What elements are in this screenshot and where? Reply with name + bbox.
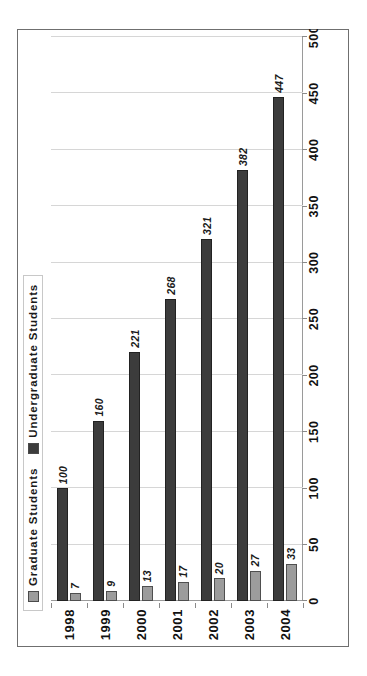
gridline (51, 374, 303, 375)
value-axis-tick-mark (302, 375, 307, 376)
gridline (51, 149, 303, 150)
bar-label-graduate-2002: 20 (213, 562, 225, 574)
plot-area: 100716092211326817321203822744733 (51, 37, 303, 601)
bar-label-undergraduate-2004: 447 (273, 74, 285, 92)
value-axis-tick-label: 150 (307, 421, 321, 443)
chart-legend: Graduate Students Undergraduate Students (23, 275, 43, 611)
bar-label-graduate-2001: 17 (177, 566, 189, 578)
category-axis-label-1999: 1999 (98, 609, 113, 640)
category-axis: 1998199920002001200220032004 (51, 603, 303, 647)
rotated-chart-wrapper: Graduate Students Undergraduate Students… (17, 29, 349, 647)
bar-undergraduate-2003 (237, 170, 248, 601)
category-axis-tick-mark (51, 603, 52, 608)
chart-canvas: Graduate Students Undergraduate Students… (17, 29, 349, 647)
bar-graduate-2000 (142, 586, 153, 601)
gridline (51, 92, 303, 93)
bar-label-graduate-2000: 13 (141, 570, 153, 582)
value-axis-tick-mark (302, 93, 307, 94)
bar-label-undergraduate-2001: 268 (165, 276, 177, 294)
bar-undergraduate-2002 (201, 239, 212, 601)
bar-graduate-2002 (214, 578, 225, 601)
category-axis-label-1998: 1998 (62, 609, 77, 640)
value-axis-tick-label: 0 (307, 597, 321, 604)
gridline (51, 205, 303, 206)
bar-undergraduate-2001 (165, 299, 176, 601)
gridline (51, 544, 303, 545)
bar-graduate-2004 (286, 564, 297, 601)
category-axis-label-2002: 2002 (206, 609, 221, 640)
value-axis-tick-label: 500 (307, 29, 321, 48)
gridline (51, 431, 303, 432)
legend-label-graduate: Graduate Students (27, 468, 39, 586)
bar-undergraduate-2000 (129, 352, 140, 601)
bar-undergraduate-1999 (93, 421, 104, 601)
category-axis-tick-mark (123, 603, 124, 608)
bar-label-undergraduate-2000: 221 (129, 329, 141, 347)
legend-swatch-graduate-icon (28, 591, 39, 602)
value-axis: 050100150200250300350400450500 (307, 37, 329, 601)
value-axis-tick-mark (302, 37, 307, 38)
value-axis-tick-mark (302, 206, 307, 207)
value-axis-tick-label: 300 (307, 251, 321, 273)
category-axis-tick-mark (195, 603, 196, 608)
bar-label-undergraduate-1999: 160 (93, 398, 105, 416)
gridline (51, 318, 303, 319)
legend-item-undergraduate: Undergraduate Students (27, 284, 39, 454)
legend-swatch-undergraduate-icon (28, 443, 39, 454)
value-axis-tick-label: 350 (307, 195, 321, 217)
category-axis-label-2000: 2000 (134, 609, 149, 640)
gridline (51, 487, 303, 488)
bar-graduate-2003 (250, 571, 261, 601)
category-axis-tick-mark (231, 603, 232, 608)
bar-graduate-1999 (106, 591, 117, 601)
legend-label-undergraduate: Undergraduate Students (27, 284, 39, 438)
category-axis-label-2003: 2003 (242, 609, 257, 640)
bar-label-undergraduate-2003: 382 (237, 148, 249, 166)
bar-label-undergraduate-1998: 100 (57, 466, 69, 484)
chart-page: Graduate Students Undergraduate Students… (0, 0, 367, 676)
value-axis-tick-label: 400 (307, 139, 321, 161)
bar-label-graduate-1999: 9 (105, 581, 117, 587)
value-axis-tick-label: 100 (307, 477, 321, 499)
gridline (51, 600, 303, 601)
value-axis-tick-mark (302, 431, 307, 432)
legend-item-graduate: Graduate Students (27, 468, 39, 602)
bar-graduate-1998 (70, 593, 81, 601)
bar-label-graduate-2004: 33 (285, 548, 297, 560)
bar-graduate-2001 (178, 582, 189, 601)
plot-background (51, 37, 303, 601)
category-axis-tick-mark (159, 603, 160, 608)
value-axis-tick-label: 50 (307, 537, 321, 552)
value-axis-tick-mark (302, 488, 307, 489)
value-axis-tick-label: 200 (307, 364, 321, 386)
category-axis-tick-mark (87, 603, 88, 608)
bar-label-graduate-1998: 7 (69, 583, 81, 589)
bar-undergraduate-1998 (57, 488, 68, 601)
value-axis-tick-label: 450 (307, 82, 321, 104)
value-axis-tick-label: 250 (307, 308, 321, 330)
value-axis-tick-mark (302, 262, 307, 263)
gridline (51, 36, 303, 37)
bar-undergraduate-2004 (273, 97, 284, 601)
gridline (51, 262, 303, 263)
category-axis-label-2001: 2001 (170, 609, 185, 640)
category-axis-tick-mark (267, 603, 268, 608)
bar-label-undergraduate-2002: 321 (201, 217, 213, 235)
category-axis-tick-mark (303, 603, 304, 608)
bar-label-graduate-2003: 27 (249, 554, 261, 566)
value-axis-tick-mark (302, 601, 307, 602)
value-axis-tick-mark (302, 544, 307, 545)
value-axis-tick-mark (302, 319, 307, 320)
category-axis-label-2004: 2004 (278, 609, 293, 640)
value-axis-tick-mark (302, 149, 307, 150)
